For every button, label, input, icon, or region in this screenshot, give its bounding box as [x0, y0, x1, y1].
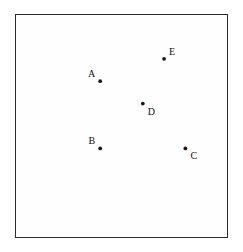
grid-plot-area: ABCDE — [15, 14, 228, 238]
point-label-a: A — [88, 68, 96, 79]
grid-border — [16, 15, 228, 238]
point-marker-a[interactable] — [98, 79, 102, 83]
point-label-d: D — [148, 106, 155, 117]
point-label-c: C — [190, 150, 197, 161]
point-marker-e[interactable] — [162, 57, 166, 61]
point-marker-c[interactable] — [184, 147, 188, 151]
point-marker-d[interactable] — [141, 102, 145, 106]
point-marker-b[interactable] — [98, 147, 102, 151]
grid-canvas: ABCDE — [15, 14, 228, 238]
point-label-e: E — [169, 46, 175, 57]
grid-outer-border — [16, 15, 228, 238]
point-label-b: B — [89, 135, 96, 146]
grid-figure: ABCDE — [0, 0, 243, 252]
